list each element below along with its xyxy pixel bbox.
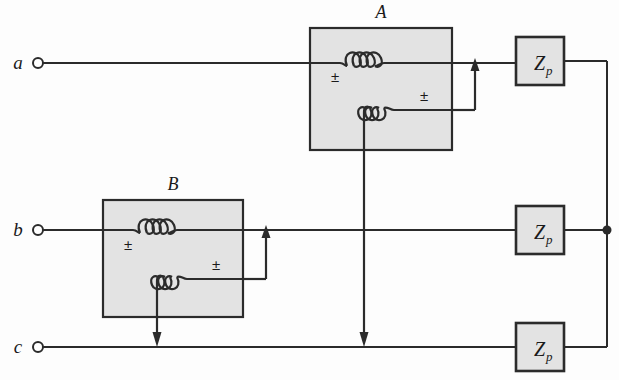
load-zp-middle-subscript: p <box>545 232 553 247</box>
transformer-b-group[interactable]: B ± ± <box>103 174 243 317</box>
transformer-b-label: B <box>168 174 179 194</box>
transformer-a-secondary-down-path <box>360 150 369 347</box>
junction-dot <box>603 226 612 235</box>
circuit-diagram-canvas: a b c A ± <box>0 0 619 380</box>
terminal-label-a: a <box>13 52 23 73</box>
load-zp-bottom-label: Z <box>534 338 546 360</box>
load-zp-top-label: Z <box>534 52 546 74</box>
terminal-node-a[interactable] <box>33 58 43 68</box>
load-zp-middle-group[interactable]: Z p <box>516 206 564 254</box>
terminal-node-c[interactable] <box>33 342 43 352</box>
transformer-a-label: A <box>375 2 388 22</box>
load-zp-middle-label: Z <box>534 221 546 243</box>
phase-line-c-group: c <box>14 336 516 357</box>
terminal-label-b: b <box>13 219 23 240</box>
transformer-a-core-box <box>310 28 452 150</box>
phase-line-a-group: a <box>13 52 310 73</box>
load-zp-top-subscript: p <box>545 63 553 78</box>
terminal-label-c: c <box>14 336 23 357</box>
transformer-a-primary-polarity-mark: ± <box>331 68 339 85</box>
current-arrow-a-up <box>471 58 480 71</box>
transformer-b-core-box <box>103 200 243 317</box>
load-zp-bottom-subscript: p <box>545 349 553 364</box>
transformer-a-secondary-polarity-mark: ± <box>420 87 428 104</box>
circuit-diagram-svg: a b c A ± <box>0 0 619 380</box>
transformer-a-group[interactable]: A ± ± <box>310 2 452 150</box>
terminal-node-b[interactable] <box>33 225 43 235</box>
current-arrow-b-down <box>153 332 162 347</box>
transformer-b-secondary-down-path <box>153 317 162 347</box>
neutral-bus-group <box>564 61 612 347</box>
transformer-b-secondary-polarity-mark: ± <box>212 256 220 273</box>
transformer-a-secondary-return-path <box>452 58 516 110</box>
load-zp-bottom-group[interactable]: Z p <box>516 323 564 371</box>
current-arrow-a-down <box>360 332 369 347</box>
current-arrow-b-up <box>262 225 271 238</box>
load-zp-top-group[interactable]: Z p <box>516 37 564 85</box>
transformer-b-primary-polarity-mark: ± <box>124 236 132 253</box>
transformer-b-secondary-return-path <box>243 225 271 279</box>
